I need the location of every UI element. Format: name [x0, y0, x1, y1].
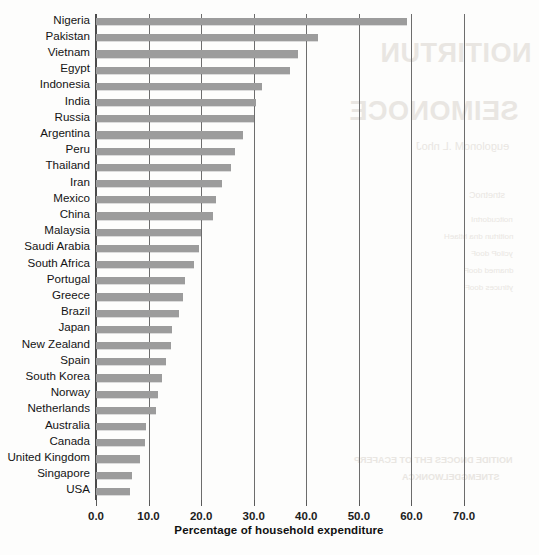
- page-bleed-line-4: dnamed dooF: [464, 266, 513, 275]
- category-label: Greece: [52, 288, 90, 301]
- plot-area: 0.010.020.030.040.050.060.070.0 NigeriaP…: [95, 14, 463, 500]
- bar-row: Canada: [96, 436, 464, 452]
- bar-row: Saudi Arabia: [96, 242, 464, 258]
- x-tick-label: 10.0: [137, 510, 159, 522]
- category-label: Spain: [60, 353, 90, 366]
- bar-row: Greece: [96, 290, 464, 306]
- x-tick-label: 30.0: [243, 510, 265, 522]
- bar-row: Iran: [96, 177, 464, 193]
- bar: [96, 310, 179, 317]
- page-bleed-line-1: noitcudortnI: [471, 215, 513, 224]
- bar: [96, 407, 156, 414]
- bar: [96, 488, 130, 495]
- bar: [96, 277, 185, 284]
- x-tick-label: 60.0: [400, 510, 422, 522]
- bar-row: Indonesia: [96, 80, 464, 96]
- category-label: Singapore: [37, 466, 90, 479]
- category-label: Portugal: [47, 272, 90, 285]
- category-label: Russia: [55, 110, 90, 123]
- category-label: Thailand: [46, 158, 90, 171]
- bar-row: China: [96, 209, 464, 225]
- bar: [96, 358, 166, 365]
- bar-row: Russia: [96, 112, 464, 128]
- bar: [96, 50, 298, 57]
- bar: [96, 342, 171, 349]
- category-label: Saudi Arabia: [24, 239, 90, 252]
- bar-row: Portugal: [96, 274, 464, 290]
- bar: [96, 164, 231, 171]
- bar: [96, 293, 183, 300]
- x-axis-title: Percentage of household expenditure: [95, 524, 463, 536]
- bar-row: India: [96, 96, 464, 112]
- bar: [96, 391, 158, 398]
- gridline-70.0: [464, 14, 465, 500]
- category-label: Norway: [51, 385, 90, 398]
- category-label: Malaysia: [44, 223, 90, 236]
- bar-row: Egypt: [96, 64, 464, 80]
- bar-row: Singapore: [96, 469, 464, 485]
- category-label: Indonesia: [40, 77, 90, 90]
- page-bleed-line-5: ytiruces dooF: [465, 283, 513, 292]
- category-label: China: [60, 207, 90, 220]
- category-label: Peru: [66, 142, 91, 155]
- bar: [96, 83, 262, 90]
- bar-row: Argentina: [96, 128, 464, 144]
- category-label: Egypt: [60, 61, 90, 74]
- bar-row: Malaysia: [96, 226, 464, 242]
- bar-row: New Zealand: [96, 339, 464, 355]
- bar: [96, 180, 222, 187]
- bar-row: Spain: [96, 355, 464, 371]
- category-label: Nigeria: [53, 13, 90, 26]
- bar-row: Peru: [96, 145, 464, 161]
- category-label: Vietnam: [48, 45, 90, 58]
- bar-row: Vietnam: [96, 47, 464, 63]
- bar-row: South Korea: [96, 371, 464, 387]
- bar: [96, 115, 254, 122]
- bar-row: USA: [96, 485, 464, 501]
- bar: [96, 439, 145, 446]
- bar: [96, 131, 243, 138]
- category-label: Netherlands: [27, 401, 90, 414]
- bar: [96, 99, 256, 106]
- bar: [96, 326, 172, 333]
- category-label: South Korea: [26, 369, 90, 382]
- category-label: New Zealand: [22, 337, 90, 350]
- category-label: Argentina: [40, 126, 90, 139]
- bar: [96, 196, 216, 203]
- bar-rows: NigeriaPakistanVietnamEgyptIndonesiaIndi…: [96, 14, 464, 500]
- bar: [96, 229, 201, 236]
- category-label: South Africa: [27, 256, 90, 269]
- bar: [96, 261, 194, 268]
- bar: [96, 374, 162, 381]
- bar: [96, 34, 318, 41]
- bar: [96, 67, 290, 74]
- bar-row: Australia: [96, 420, 464, 436]
- category-label: Australia: [45, 418, 90, 431]
- category-label: India: [65, 94, 90, 107]
- bar-row: Norway: [96, 388, 464, 404]
- bar: [96, 212, 213, 219]
- category-label: Canada: [49, 434, 90, 447]
- category-label: Mexico: [53, 191, 90, 204]
- bar: [96, 148, 235, 155]
- bar-row: Brazil: [96, 307, 464, 323]
- category-label: United Kingdom: [8, 450, 91, 463]
- x-tick-label: 20.0: [190, 510, 212, 522]
- x-tick-label: 50.0: [348, 510, 370, 522]
- bar-row: Netherlands: [96, 404, 464, 420]
- category-label: Japan: [58, 320, 90, 333]
- bar-row: Japan: [96, 323, 464, 339]
- category-label: USA: [66, 482, 90, 495]
- page-bleed-heading: stnetnoC: [469, 190, 505, 200]
- bar-row: Mexico: [96, 193, 464, 209]
- chart-figure: NOITIRTUN SEIMONOCE eugolonoM .L nhoJ st…: [0, 0, 539, 555]
- bar: [96, 455, 140, 462]
- tick-70.0: [464, 500, 465, 506]
- bar: [96, 423, 146, 430]
- bar-row: Pakistan: [96, 31, 464, 47]
- category-label: Pakistan: [46, 29, 90, 42]
- bar-row: United Kingdom: [96, 452, 464, 468]
- bar-row: Thailand: [96, 161, 464, 177]
- bar: [96, 18, 407, 25]
- x-tick-label: 40.0: [295, 510, 317, 522]
